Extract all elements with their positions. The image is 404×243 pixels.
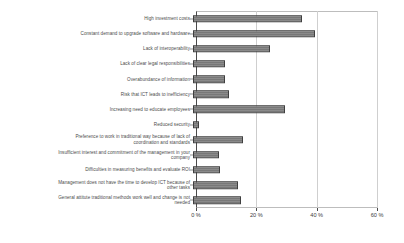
category-label: Lack of clear legal responsibilities xyxy=(0,61,193,66)
category-label: Increasing need to educate employees xyxy=(0,107,193,112)
category-label: High investment costs xyxy=(0,16,193,21)
bar-track xyxy=(193,147,404,162)
bar-track xyxy=(193,193,404,208)
category-label: Difficulties in measuring benefits and e… xyxy=(0,167,193,172)
category-label: Management does not have the time to dev… xyxy=(0,180,193,190)
bar xyxy=(193,197,241,205)
bar-row: Risk that ICT leads to inefficiency xyxy=(0,87,404,102)
bar-row: Insufficient interest and commitment of … xyxy=(0,147,404,162)
bar xyxy=(193,45,270,53)
category-label: Reduced security xyxy=(0,122,193,127)
x-tick-label-20: 20 % xyxy=(250,212,263,218)
tickmark-40 xyxy=(317,208,318,211)
tickmark-60 xyxy=(377,208,378,211)
bar-row: Difficulties in measuring benefits and e… xyxy=(0,162,404,177)
bar-row: Lack of clear legal responsibilities xyxy=(0,56,404,71)
bar-row: Increasing need to educate employees xyxy=(0,102,404,117)
bar-track xyxy=(193,132,404,147)
bar-row: Reduced security xyxy=(0,117,404,132)
bar-track xyxy=(193,102,404,117)
bar-row: Overabundance of information xyxy=(0,72,404,87)
bar-track xyxy=(193,11,404,26)
bar-chart: High investment costsConstant demand to … xyxy=(0,0,404,243)
category-label: Insufficient interest and commitment of … xyxy=(0,150,193,160)
bar xyxy=(193,75,225,83)
bar-track xyxy=(193,41,404,56)
category-label: Overabundance of information xyxy=(0,77,193,82)
bar-row: Lack of interoperability xyxy=(0,41,404,56)
bar-row: High investment costs xyxy=(0,11,404,26)
bar-track xyxy=(193,56,404,71)
bar-track xyxy=(193,162,404,177)
bar xyxy=(193,181,238,189)
bar-track xyxy=(193,178,404,193)
category-label: Constant demand to upgrade software and … xyxy=(0,31,193,36)
x-tick-label-40: 40 % xyxy=(310,212,323,218)
tickmark-0 xyxy=(196,208,197,211)
bar-track xyxy=(193,117,404,132)
bar xyxy=(193,106,285,114)
bar-row: General attitute traditional methods wor… xyxy=(0,193,404,208)
bar xyxy=(193,136,243,144)
bar xyxy=(193,121,199,129)
bar xyxy=(193,15,302,23)
bar xyxy=(193,151,219,159)
bar xyxy=(193,91,229,99)
bar-row: Constant demand to upgrade software and … xyxy=(0,26,404,41)
bar-track xyxy=(193,72,404,87)
x-axis-tick-labels: 0 %20 %40 %60 % xyxy=(0,212,404,224)
bar xyxy=(193,60,225,68)
tickmark-20 xyxy=(256,208,257,211)
bar-row: Preference to work in traditional way be… xyxy=(0,132,404,147)
bar-rows: High investment costsConstant demand to … xyxy=(0,11,404,208)
category-label: Lack of interoperability xyxy=(0,46,193,51)
category-label: Preference to work in traditional way be… xyxy=(0,134,193,144)
bar xyxy=(193,30,315,38)
bar-track xyxy=(193,87,404,102)
bar-track xyxy=(193,26,404,41)
x-tick-label-0: 0 % xyxy=(191,212,201,218)
category-label: General attitute traditional methods wor… xyxy=(0,195,193,205)
category-label: Risk that ICT leads to inefficiency xyxy=(0,92,193,97)
x-tick-label-60: 60 % xyxy=(371,212,384,218)
bar xyxy=(193,166,220,174)
bar-row: Management does not have the time to dev… xyxy=(0,178,404,193)
